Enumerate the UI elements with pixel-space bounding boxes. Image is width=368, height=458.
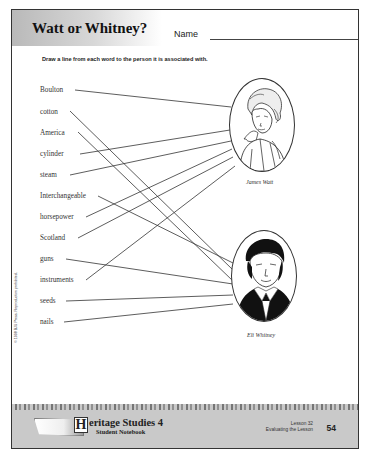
- page-number: 54: [327, 423, 336, 433]
- worksheet-page: Watt or Whitney? Name Draw a line from e…: [11, 9, 359, 449]
- word-scotland[interactable]: Scotland: [40, 234, 65, 242]
- james-watt-engraving-icon: [230, 79, 294, 171]
- lesson-info: Lesson 32 Evaluating the Lesson: [266, 421, 313, 433]
- brand-subtitle: Student Notebook: [96, 428, 145, 435]
- lesson-subtitle: Evaluating the Lesson: [266, 427, 313, 433]
- name-field[interactable]: [210, 39, 358, 40]
- eli-whitney-engraving-icon: [232, 231, 296, 321]
- word-instruments[interactable]: instruments: [40, 276, 74, 284]
- word-seeds[interactable]: seeds: [40, 297, 56, 305]
- caption-eli-whitney: Eli Whitney: [247, 332, 275, 338]
- word-boulton[interactable]: Boulton: [40, 86, 63, 94]
- portrait-james-watt[interactable]: [229, 78, 295, 172]
- word-interchangeable[interactable]: Interchangeable: [40, 192, 86, 200]
- brand-initial: H: [74, 417, 88, 433]
- caption-james-watt: James Watt: [246, 179, 273, 185]
- portrait-eli-whitney[interactable]: [231, 230, 297, 322]
- word-guns[interactable]: guns: [40, 255, 54, 263]
- footer-banner: H eritage Studies 4 Student Notebook Les…: [11, 404, 359, 449]
- brand-title: eritage Studies 4: [89, 417, 163, 428]
- instructions: Draw a line from each word to the person…: [42, 56, 208, 62]
- word-nails[interactable]: nails: [40, 318, 54, 326]
- word-america[interactable]: America: [40, 129, 65, 137]
- word-cylinder[interactable]: cylinder: [40, 150, 64, 158]
- word-horsepower[interactable]: horsepower: [40, 213, 74, 221]
- page-title: Watt or Whitney?: [32, 20, 147, 37]
- word-cotton[interactable]: cotton: [40, 108, 58, 116]
- name-label: Name: [174, 29, 198, 39]
- word-steam[interactable]: steam: [40, 171, 57, 179]
- decorative-border: [12, 404, 358, 410]
- copyright-notice: © 1998 BJU Press. Reproduction prohibite…: [14, 272, 18, 343]
